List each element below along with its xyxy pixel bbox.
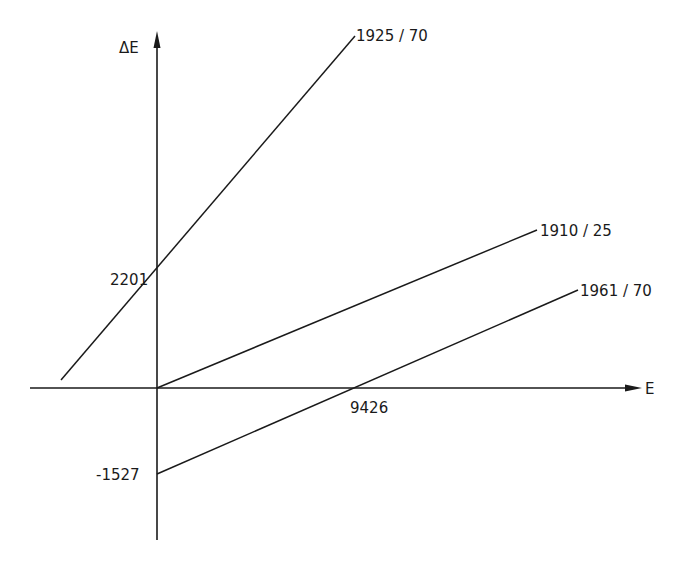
x-intercept-label-9426: 9426 bbox=[350, 399, 388, 417]
series-label-1961-70: 1961 / 70 bbox=[580, 282, 652, 300]
series-label-1925-70: 1925 / 70 bbox=[356, 27, 428, 45]
y-intercept-label-neg-1527: -1527 bbox=[96, 466, 140, 484]
series-1925-70: 1925 / 70 bbox=[61, 27, 428, 380]
x-axis: E bbox=[30, 380, 654, 398]
x-axis-arrow-icon bbox=[625, 385, 642, 392]
y-axis-arrow-icon bbox=[154, 31, 161, 48]
series-label-1910-25: 1910 / 25 bbox=[540, 222, 612, 240]
chart-canvas: ΔE E 1925 / 70 1910 / 25 1961 / 70 2201 … bbox=[0, 0, 688, 568]
series-1961-70: 1961 / 70 bbox=[157, 282, 652, 474]
y-intercept-label-2201: 2201 bbox=[110, 271, 148, 289]
y-axis-label: ΔE bbox=[119, 39, 139, 57]
x-axis-label: E bbox=[645, 380, 654, 398]
